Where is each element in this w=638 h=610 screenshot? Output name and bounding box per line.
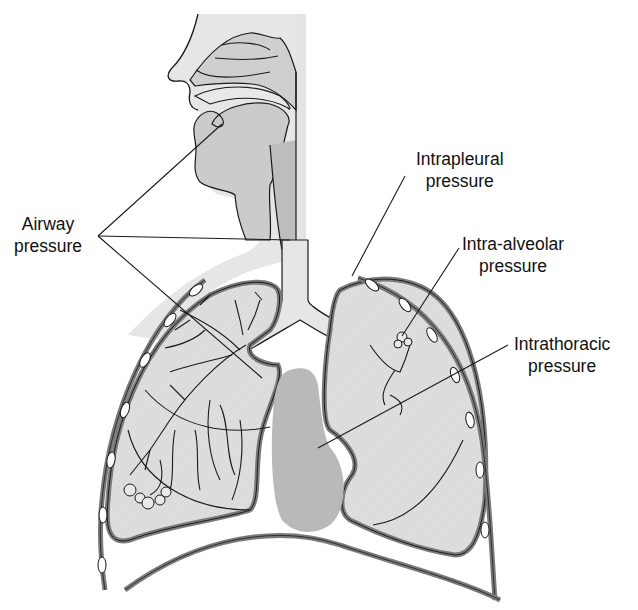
right-lung [324, 279, 486, 555]
label-intrathoracic-line1: Intrathoracic [514, 333, 610, 355]
label-intra-alveolar-pressure: Intra-alveolar pressure [462, 233, 564, 277]
label-intrapleural-pressure: Intrapleural pressure [416, 148, 504, 192]
respiratory-diagram [0, 0, 638, 610]
label-airway-line1: Airway [14, 213, 82, 235]
label-intrathoracic-line2: pressure [514, 355, 610, 377]
left-lung [107, 282, 279, 541]
label-airway-pressure: Airway pressure [14, 213, 82, 257]
label-intrathoracic-pressure: Intrathoracic pressure [514, 333, 610, 377]
label-airway-line2: pressure [14, 235, 82, 257]
label-intra-alveolar-line1: Intra-alveolar [462, 233, 564, 255]
label-intra-alveolar-line2: pressure [462, 255, 564, 277]
label-intrapleural-line1: Intrapleural [416, 148, 504, 170]
label-intrapleural-line2: pressure [416, 170, 504, 192]
